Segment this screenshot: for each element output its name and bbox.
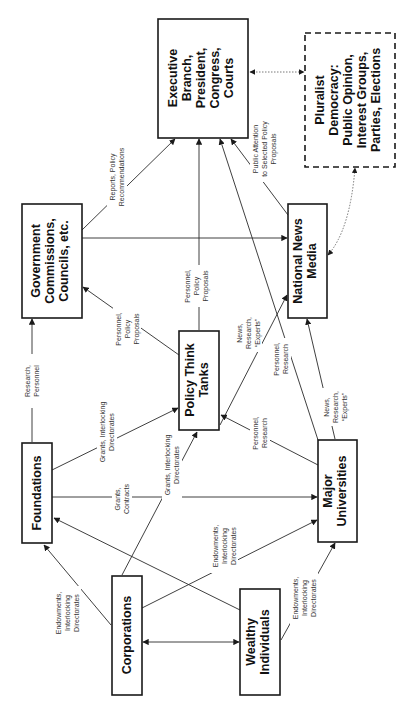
label-corp-univ: Endowments, Interlocking Directorates xyxy=(210,519,238,573)
svg-text:Public Opinion,: Public Opinion, xyxy=(341,54,355,146)
svg-text:Research,: Research, xyxy=(245,317,252,349)
svg-text:Executive: Executive xyxy=(166,49,180,107)
edge-corp-tt xyxy=(122,432,197,575)
svg-text:Directorates: Directorates xyxy=(73,594,80,632)
svg-text:Research,: Research, xyxy=(24,365,31,397)
label-corp-tt: Grants, Interlocking Directorates xyxy=(162,426,182,502)
svg-text:Directorates: Directorates xyxy=(173,446,180,484)
svg-text:Courts: Courts xyxy=(222,58,236,98)
node-policy-think-tanks: Policy Think Tanks xyxy=(179,331,219,430)
svg-text:Endowments,: Endowments, xyxy=(55,592,62,634)
svg-text:Policy Think: Policy Think xyxy=(183,343,197,417)
node-foundations: Foundations xyxy=(22,443,52,543)
svg-text:Councils, etc.: Councils, etc. xyxy=(57,220,71,301)
label-found-univ: Grants, Contracts xyxy=(112,478,132,520)
svg-text:Personnel,: Personnel, xyxy=(184,269,191,303)
svg-text:Reports, Policy: Reports, Policy xyxy=(109,153,117,201)
label-media-exec: Public Attention to Selected Policy Prop… xyxy=(250,116,278,182)
svg-text:“Experts”: “Experts” xyxy=(254,318,262,347)
edge-gov-exec xyxy=(82,139,175,230)
svg-text:Grants, Interlocking: Grants, Interlocking xyxy=(99,402,107,463)
svg-text:Policy: Policy xyxy=(124,319,132,338)
label-gov-exec: Reports, Policy Recommendations xyxy=(107,145,127,207)
node-major-universities: Major Universities xyxy=(318,440,357,542)
power-structure-diagram: Reports, Policy Recommendations Public A… xyxy=(0,0,412,724)
label-univ-exec: Personnel, Research xyxy=(271,338,291,380)
svg-text:Grants,: Grants, xyxy=(114,487,121,510)
svg-text:Directorates: Directorates xyxy=(310,579,317,617)
label-found-gov: Research, Personnel xyxy=(22,354,42,408)
svg-text:Pluralist: Pluralist xyxy=(313,75,327,125)
svg-text:Media: Media xyxy=(305,242,319,278)
label-wealthy-univ: Endowments, Interlocking Directorates xyxy=(290,571,318,625)
svg-text:President,: President, xyxy=(194,48,208,108)
svg-text:Proposals: Proposals xyxy=(202,270,210,302)
svg-text:Major: Major xyxy=(321,474,335,507)
svg-text:Wealthy: Wealthy xyxy=(244,618,258,666)
svg-text:Branch,: Branch, xyxy=(180,55,194,102)
label-univ-media: News, Research, “Experts” xyxy=(321,388,349,426)
svg-text:to Selected Policy: to Selected Policy xyxy=(261,121,269,177)
svg-text:“Experts”: “Experts” xyxy=(341,392,349,421)
svg-text:Foundations: Foundations xyxy=(30,455,44,530)
svg-text:Research: Research xyxy=(282,344,289,374)
svg-text:Recommendations: Recommendations xyxy=(118,147,125,206)
label-tt-gov: Personnel, Policy Proposals xyxy=(113,308,141,350)
label-corp-found: Endowments, Interlocking Directorates xyxy=(53,586,81,640)
svg-text:Interlocking: Interlocking xyxy=(64,595,72,631)
svg-text:Tanks: Tanks xyxy=(197,362,211,397)
svg-text:Interlocking: Interlocking xyxy=(301,580,309,616)
svg-text:Interlocking: Interlocking xyxy=(221,528,229,564)
svg-text:Directorates: Directorates xyxy=(108,413,115,451)
svg-text:Policy: Policy xyxy=(193,276,201,295)
svg-text:Personnel,: Personnel, xyxy=(115,312,122,346)
node-national-news-media: National News Media xyxy=(288,204,327,318)
svg-text:Personnel: Personnel xyxy=(33,365,40,397)
svg-text:Endowments,: Endowments, xyxy=(292,577,299,619)
svg-text:Proposals: Proposals xyxy=(133,313,141,345)
svg-text:Commissions,: Commissions, xyxy=(43,218,57,303)
svg-text:Directorates: Directorates xyxy=(230,527,237,565)
svg-text:News,: News, xyxy=(236,323,243,343)
svg-text:Government: Government xyxy=(29,223,43,297)
label-tt-media: News, Research, “Experts” xyxy=(234,314,262,352)
edge-media-pluralist xyxy=(328,168,355,255)
svg-text:Interest Groups,: Interest Groups, xyxy=(355,52,369,149)
svg-text:Contracts: Contracts xyxy=(123,484,130,514)
svg-text:National News: National News xyxy=(291,218,305,303)
svg-text:Personnel,: Personnel, xyxy=(273,342,280,376)
label-found-tt: Grants, Interlocking Directorates xyxy=(97,393,117,469)
svg-text:Research,: Research, xyxy=(332,391,339,423)
svg-text:Grants, Interlocking: Grants, Interlocking xyxy=(164,435,172,496)
node-executive-branch: Executive Branch, President, Congress, C… xyxy=(158,19,248,138)
svg-text:Democracy:: Democracy: xyxy=(327,64,341,136)
svg-text:Public Attention: Public Attention xyxy=(252,125,259,173)
svg-text:Personnel,: Personnel, xyxy=(252,416,259,450)
svg-text:Research: Research xyxy=(261,418,268,448)
node-pluralist-democracy: Pluralist Democracy: Public Opinion, Int… xyxy=(305,33,395,167)
node-wealthy-individuals: Wealthy Individuals xyxy=(240,589,280,695)
label-tt-exec: Personnel, Policy Proposals xyxy=(182,265,210,307)
node-corporations: Corporations xyxy=(112,576,142,695)
label-univ-tt: Personnel, Research xyxy=(250,412,270,454)
svg-text:Corporations: Corporations xyxy=(120,596,134,675)
svg-text:Endowments,: Endowments, xyxy=(212,525,219,567)
svg-text:Proposals: Proposals xyxy=(270,133,278,165)
node-government-commissions: Government Commissions, Councils, etc. xyxy=(22,204,82,318)
svg-text:Universities: Universities xyxy=(335,456,349,527)
svg-text:Congress,: Congress, xyxy=(208,47,222,108)
svg-text:News,: News, xyxy=(323,397,330,417)
svg-text:Individuals: Individuals xyxy=(258,609,272,674)
svg-text:Parties, Elections: Parties, Elections xyxy=(369,48,383,152)
